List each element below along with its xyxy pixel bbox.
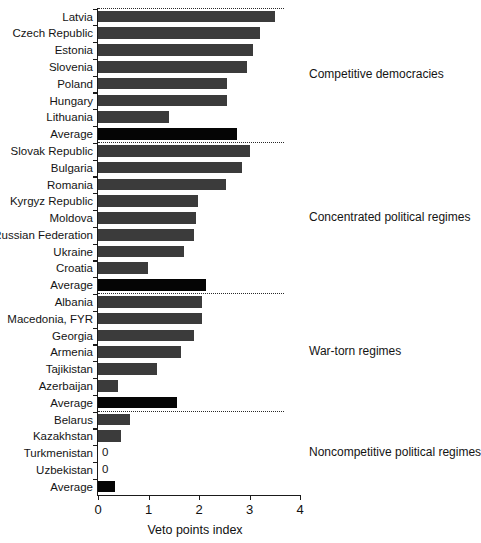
group-label: War-torn regimes — [309, 344, 401, 358]
category-label: Average — [50, 279, 93, 291]
x-axis-tick-label: 0 — [86, 502, 110, 517]
category-label: Estonia — [55, 44, 93, 56]
bar — [98, 330, 194, 342]
bar — [98, 313, 202, 325]
y-axis-tick — [93, 109, 98, 110]
bar — [98, 195, 198, 207]
bar-row: Slovenia — [98, 61, 300, 73]
bar — [98, 95, 227, 107]
bar-average — [98, 128, 237, 140]
bar — [98, 296, 202, 308]
group-separator — [98, 142, 284, 143]
bar-row: Estonia — [98, 44, 300, 56]
bar-row-average: Average — [98, 279, 300, 291]
bar-row-average: Average — [98, 128, 300, 140]
bar-average — [98, 397, 177, 409]
bar — [98, 179, 226, 191]
category-label: Slovenia — [49, 61, 93, 73]
bar-row: Moldova — [98, 212, 300, 224]
x-axis-tick-label: 3 — [238, 502, 262, 517]
x-axis-tick — [149, 495, 150, 500]
bar — [98, 246, 184, 258]
bar — [98, 380, 118, 392]
x-axis-tick — [199, 495, 200, 500]
x-axis-title: Veto points index — [0, 523, 390, 537]
y-axis-tick — [93, 160, 98, 161]
group-separator — [98, 8, 284, 9]
bar-row: Tajikistan — [98, 363, 300, 375]
group-label: Concentrated political regimes — [309, 210, 470, 224]
y-axis-tick — [93, 328, 98, 329]
y-axis-tick — [93, 59, 98, 60]
bar-row: Ukraine — [98, 246, 300, 258]
bar-row: Bulgaria — [98, 162, 300, 174]
bar-row-average: Average — [98, 481, 300, 493]
y-axis-tick — [93, 361, 98, 362]
bar — [98, 44, 253, 56]
bar-row: Uzbekistan0 — [98, 464, 300, 476]
x-axis-tick — [300, 495, 301, 500]
plot-area: LatviaCzech RepublicEstoniaSloveniaPolan… — [98, 8, 300, 495]
category-label: Moldova — [50, 212, 93, 224]
y-axis-tick — [93, 227, 98, 228]
bar-row: Slovak Republic — [98, 145, 300, 157]
bar-row: Georgia — [98, 330, 300, 342]
bar — [98, 430, 121, 442]
category-label: Georgia — [52, 330, 93, 342]
x-axis-tick-label: 2 — [187, 502, 211, 517]
bar-row: Hungary — [98, 95, 300, 107]
category-label: Uzbekistan — [36, 464, 93, 476]
bar — [98, 145, 250, 157]
y-axis-tick — [93, 344, 98, 345]
category-label: Average — [50, 397, 93, 409]
bar — [98, 111, 169, 123]
category-label: Average — [50, 481, 93, 493]
bar-row: Azerbaijan — [98, 380, 300, 392]
bar-row: Macedonia, FYR — [98, 313, 300, 325]
category-label: Hungary — [50, 95, 93, 107]
bar-row: Kazakhstan — [98, 430, 300, 442]
bar-row-average: Average — [98, 397, 300, 409]
y-axis-tick — [93, 277, 98, 278]
category-label: Czech Republic — [12, 27, 93, 39]
bar — [98, 11, 275, 23]
y-axis-tick — [93, 311, 98, 312]
x-axis-tick — [250, 495, 251, 500]
y-axis-tick — [93, 210, 98, 211]
category-label: Albania — [55, 296, 93, 308]
bar-row: Czech Republic — [98, 27, 300, 39]
bar-row: Russian Federation — [98, 229, 300, 241]
bar-row: Belarus — [98, 414, 300, 426]
y-axis-tick — [93, 42, 98, 43]
category-label: Romania — [47, 179, 93, 191]
y-axis-tick — [93, 479, 98, 480]
bar — [98, 363, 157, 375]
bar-row: Croatia — [98, 262, 300, 274]
y-axis-tick — [93, 428, 98, 429]
category-label: Belarus — [54, 414, 93, 426]
bar-row: Albania — [98, 296, 300, 308]
y-axis-tick — [93, 25, 98, 26]
category-label: Macedonia, FYR — [7, 313, 93, 325]
category-label: Slovak Republic — [11, 145, 93, 157]
category-label: Kyrgyz Republic — [10, 195, 93, 207]
group-separator — [98, 411, 284, 412]
y-axis-tick — [93, 176, 98, 177]
y-axis-tick — [93, 260, 98, 261]
bar — [98, 229, 194, 241]
category-label: Kazakhstan — [33, 430, 93, 442]
bar-value-label: 0 — [102, 463, 108, 475]
bar-average — [98, 481, 115, 493]
category-label: Poland — [57, 78, 93, 90]
category-label: Latvia — [62, 11, 93, 23]
x-axis-tick-label: 1 — [137, 502, 161, 517]
bar — [98, 262, 148, 274]
y-axis-tick — [93, 244, 98, 245]
category-label: Croatia — [56, 262, 93, 274]
y-axis-tick — [93, 378, 98, 379]
bar-value-label: 0 — [102, 446, 108, 458]
x-axis-tick — [98, 495, 99, 500]
bar — [98, 346, 181, 358]
bar — [98, 78, 227, 90]
